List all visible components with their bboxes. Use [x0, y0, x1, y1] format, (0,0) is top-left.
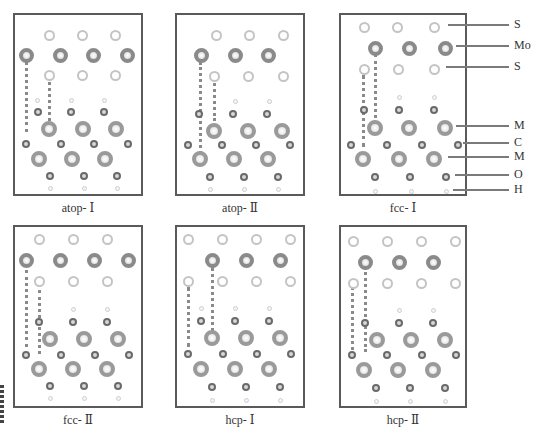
carbon-atom: [454, 141, 462, 149]
hydrogen-atom: [48, 186, 53, 191]
sulfur-atom: [77, 70, 88, 81]
carbon-atom: [371, 173, 379, 181]
hydrogen-atom: [276, 187, 281, 192]
carbon-atom: [240, 173, 248, 181]
sulfur-atom: [392, 22, 403, 33]
carbon-atom: [206, 173, 214, 181]
carbon-atom: [46, 172, 54, 180]
sulfur-atom: [110, 70, 121, 81]
carbon-atom: [348, 351, 356, 359]
sulfur-atom: [217, 276, 228, 287]
carbon-atom: [125, 351, 133, 359]
metal-atom: [97, 151, 113, 167]
molybdenum-atom: [205, 253, 220, 268]
sulfur-atom: [243, 71, 254, 82]
molybdenum-atom: [87, 253, 102, 268]
metal-atom: [391, 151, 407, 167]
metal-atom: [369, 332, 385, 348]
metal-atom: [192, 151, 208, 167]
sulfur-atom: [102, 276, 113, 287]
metal-atom: [356, 362, 372, 378]
hydrogen-atom: [244, 398, 249, 403]
hydrogen-atom: [397, 308, 402, 313]
legend-leader-line: [448, 24, 509, 26]
metal-atom: [260, 151, 276, 167]
sulfur-atom: [251, 276, 262, 287]
hydrogen-atom: [242, 187, 247, 192]
hydrogen-atom: [102, 98, 107, 103]
carbon-atom: [69, 318, 77, 326]
carbon-atom: [406, 173, 414, 181]
metal-atom: [272, 330, 288, 346]
metal-atom: [226, 151, 242, 167]
hydrogen-atom: [116, 396, 121, 401]
molybdenum-atom: [239, 253, 254, 268]
carbon-atom: [253, 350, 261, 358]
sulfur-atom: [110, 30, 121, 41]
legend-label: H: [514, 182, 523, 197]
metal-atom: [274, 123, 290, 139]
hydrogen-atom: [408, 399, 413, 404]
sulfur-atom: [348, 236, 359, 247]
molybdenum-atom: [194, 48, 209, 63]
sulfur-atom: [285, 234, 296, 245]
carbon-atom: [406, 384, 414, 392]
carbon-atom: [100, 108, 108, 116]
dotted-guide-line: [364, 267, 367, 352]
carbon-atom: [383, 141, 391, 149]
carbon-atom: [395, 319, 403, 327]
metal-atom: [401, 120, 417, 136]
sulfur-atom: [68, 234, 79, 245]
molybdenum-atom: [261, 48, 276, 63]
molybdenum-atom: [86, 48, 101, 63]
hydrogen-atom: [210, 398, 215, 403]
sulfur-atom: [77, 30, 88, 41]
metal-atom: [42, 331, 58, 347]
hydrogen-atom: [444, 189, 449, 194]
carbon-atom: [242, 383, 250, 391]
hydrogen-atom: [199, 306, 204, 311]
carbon-atom: [57, 140, 65, 148]
legend-leader-line: [446, 66, 509, 68]
legend-label: Mo: [514, 38, 531, 53]
hydrogen-atom: [69, 98, 74, 103]
molybdenum-atom: [426, 255, 441, 270]
sulfur-atom: [416, 236, 427, 247]
sulfur-atom: [393, 64, 404, 75]
hydrogen-atom: [267, 99, 272, 104]
carbon-atom: [35, 318, 43, 326]
legend-leader-line: [453, 189, 509, 191]
metal-atom: [426, 151, 442, 167]
metal-atom: [403, 332, 419, 348]
carbon-atom: [67, 108, 75, 116]
metal-atom: [99, 361, 115, 377]
dotted-guide-line: [351, 287, 354, 350]
sulfur-atom: [429, 22, 440, 33]
metal-atom: [425, 362, 441, 378]
carbon-atom: [219, 350, 227, 358]
carbon-atom: [287, 350, 295, 358]
carbon-atom: [452, 351, 460, 359]
sulfur-atom: [244, 30, 255, 41]
sulfur-atom: [278, 30, 289, 41]
panel-caption: hcp- Ⅱ: [338, 413, 468, 428]
metal-atom: [390, 362, 406, 378]
carbon-atom: [265, 317, 273, 325]
sulfur-atom: [382, 236, 393, 247]
metal-atom: [41, 121, 57, 137]
metal-atom: [355, 151, 371, 167]
metal-atom: [367, 120, 383, 136]
hydrogen-atom: [105, 307, 110, 312]
carbon-atom: [360, 106, 368, 114]
panel-caption: atop- Ⅱ: [175, 201, 305, 216]
legend-label: C: [514, 135, 522, 150]
carbon-atom: [80, 172, 88, 180]
legend-label: S: [514, 17, 521, 32]
legend-leader-line: [463, 142, 509, 144]
legend-leader-line: [448, 156, 509, 158]
sulfur-atom: [68, 276, 79, 287]
panel-caption: fcc- Ⅰ: [338, 201, 468, 216]
carbon-atom: [441, 384, 449, 392]
legend-label: O: [514, 167, 523, 182]
sulfur-atom: [348, 278, 359, 289]
